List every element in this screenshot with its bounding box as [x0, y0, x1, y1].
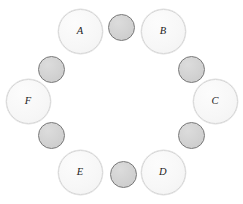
- connector-node-lower-right[interactable]: [178, 122, 205, 149]
- node-circle-d[interactable]: D: [141, 150, 186, 195]
- node-circle-f[interactable]: F: [6, 79, 51, 124]
- node-circle-e[interactable]: E: [58, 150, 103, 195]
- node-label-b: B: [160, 25, 167, 36]
- connector-node-lower-left[interactable]: [38, 122, 65, 149]
- node-label-d: D: [159, 166, 167, 177]
- node-circle-b[interactable]: B: [141, 9, 186, 54]
- node-label-a: A: [77, 25, 84, 36]
- connector-node-bottom-center[interactable]: [110, 161, 137, 188]
- node-label-e: E: [77, 166, 84, 177]
- connector-node-top-center[interactable]: [108, 14, 135, 41]
- node-circle-c[interactable]: C: [193, 79, 238, 124]
- node-label-c: C: [211, 95, 218, 106]
- ring-diagram: ABCDEF: [0, 0, 243, 204]
- node-circle-a[interactable]: A: [58, 9, 103, 54]
- connector-node-upper-left[interactable]: [38, 56, 65, 83]
- connector-node-upper-right[interactable]: [178, 56, 205, 83]
- node-label-f: F: [25, 95, 32, 106]
